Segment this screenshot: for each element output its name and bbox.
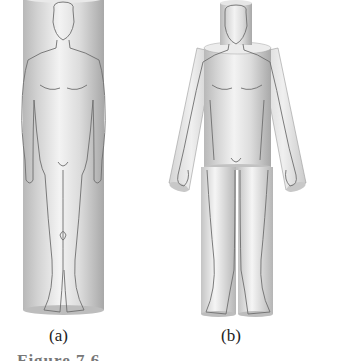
right-leg-cylinder (238, 167, 273, 317)
panel-a-label: (a) (49, 326, 68, 346)
figure-caption-cutoff: Figure 7.6 (17, 352, 100, 361)
left-leg-cylinder (201, 167, 236, 317)
panel-b-segmented-cylinders (168, 0, 306, 317)
panel-b-label: (b) (221, 326, 241, 346)
panel-a-single-cylinder (22, 0, 105, 315)
figure-illustration (0, 0, 347, 361)
